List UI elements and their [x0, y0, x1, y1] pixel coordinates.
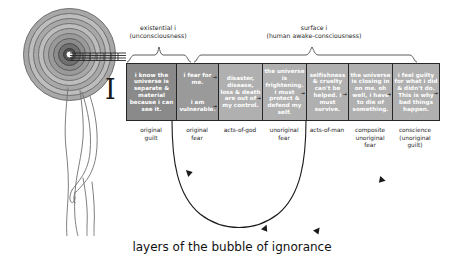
layer-cell-6[interactable]: the universe is closing in on me. oh wel… — [349, 64, 393, 120]
group-label-surface-line1: surface i — [228, 24, 400, 32]
layer-cell-6-text: the universe is closing in on me. oh wel… — [350, 72, 391, 113]
layer-cell-2-arrow-top: → — [213, 75, 217, 80]
diagram-caption: layers of the bubble of ignorance — [0, 240, 464, 254]
layer-label-6: composite unoriginal fear — [348, 125, 392, 151]
layer-cell-3-arrow: → — [257, 96, 261, 101]
layer-label-7: conscience (unoriginal guilt) — [392, 125, 438, 151]
group-label-surface-line2: (human awake-consciousness) — [228, 32, 400, 40]
person-outline-icon — [36, 86, 122, 236]
diagram-canvas: I I existential i (unconsciousness) surf… — [0, 0, 464, 269]
human-figure — [36, 86, 122, 236]
layer-cell-7-arrow: → — [434, 91, 438, 96]
layer-cell-1[interactable]: i know the universe is separate & materi… — [127, 64, 177, 120]
layer-cell-7-text: i feel guilty for what i did & didn't do… — [394, 72, 438, 113]
layer-label-1: original guilt — [126, 125, 176, 151]
layer-label-7-line2: (unoriginal — [392, 135, 438, 143]
group-label-existential-line1: existential i — [124, 24, 192, 32]
layer-cell-4[interactable]: the universe is frightening. i must prot… — [263, 64, 307, 120]
layer-label-6-line2: unoriginal — [348, 135, 392, 143]
bubble-arrowheads — [184, 170, 385, 234]
layer-cell-3[interactable]: disaster, disease, loss & death are out … — [219, 64, 263, 120]
layer-label-6-line1: composite — [348, 127, 392, 135]
layer-label-3-line1: acts-of-god — [218, 127, 262, 135]
layer-label-2-line2: fear — [176, 135, 218, 143]
layer-cell-6-arrow: → — [387, 92, 391, 97]
layer-cell-5-arrow: → — [343, 92, 347, 97]
layer-cell-4-text: the universe is frightening. i must prot… — [264, 68, 305, 116]
group-label-existential-line2: (unconsciousness) — [124, 32, 192, 40]
layer-band: i know the universe is separate & materi… — [126, 63, 440, 121]
layer-cell-5[interactable]: selfishness & cruelty can't be helped. i… — [307, 64, 349, 120]
layer-cell-1-text: i know the universe is separate & materi… — [128, 72, 175, 113]
layer-label-3: acts-of-god — [218, 125, 262, 151]
layer-label-4: unoriginal fear — [262, 125, 306, 151]
layer-cell-2-text-bottom: i am vulnerable. — [178, 99, 217, 113]
layer-label-1-line2: guilt — [126, 135, 176, 143]
bracket-left: I — [105, 76, 116, 103]
layer-cell-5-text: selfishness & cruelty can't be helped. i… — [308, 72, 347, 113]
layer-label-5-line1: acts-of-man — [306, 127, 348, 135]
layer-label-2-line1: original — [176, 127, 218, 135]
layer-label-1-line1: original — [126, 127, 176, 135]
layer-label-4-line2: fear — [262, 135, 306, 143]
layer-cell-3-text: disaster, disease, loss & death are out … — [220, 75, 261, 109]
brace-existential — [127, 47, 191, 62]
layer-cell-2-arrow-bottom: → — [213, 104, 217, 109]
brace-surface — [194, 47, 417, 62]
layer-cell-2-text-top: i fear for me. — [178, 72, 217, 86]
group-label-existential: existential i (unconsciousness) — [124, 24, 192, 41]
layer-label-6-line3: fear — [348, 142, 392, 150]
layer-label-7-line3: guilt) — [392, 142, 438, 150]
layer-cell-4-arrow: → — [301, 91, 305, 96]
layer-label-5: acts-of-man — [306, 125, 348, 151]
layer-cell-2[interactable]: i fear for me. i am vulnerable. → → — [177, 64, 219, 120]
group-label-surface: surface i (human awake-consciousness) — [228, 24, 400, 41]
layer-label-4-line1: unoriginal — [262, 127, 306, 135]
layer-cell-7[interactable]: i feel guilty for what i did & didn't do… — [393, 64, 439, 120]
layer-label-row: original guilt original fear acts-of-god… — [126, 125, 438, 151]
layer-label-7-line1: conscience — [392, 127, 438, 135]
layer-label-2: original fear — [176, 125, 218, 151]
